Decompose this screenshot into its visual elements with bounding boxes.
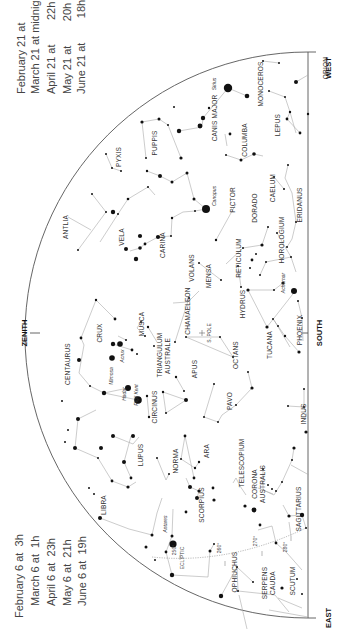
constellation-label: AUSTRALIS <box>259 465 266 503</box>
constellation-label: PICTOR <box>229 187 236 213</box>
constellation-label: PUPPIS <box>151 130 158 156</box>
ecliptic-mark-280: 280° <box>282 542 288 552</box>
constellation-label: DORADO <box>251 193 258 223</box>
star-label: Hadar <box>121 387 127 401</box>
constellation-label: MUSCA <box>138 311 145 336</box>
star-label: Canopus <box>211 185 217 206</box>
star-label: Sirius <box>211 77 217 90</box>
constellation-label: CRUX <box>96 323 103 343</box>
constellation-label: VELA <box>118 228 125 246</box>
constellation-label: PYXIS <box>115 146 122 167</box>
constellation-label: CAUDA <box>269 571 276 595</box>
constellation-label: COLUMBA <box>241 123 248 157</box>
south-pole-marker: S. POLE <box>199 323 212 343</box>
constellation-label: OPHIUCHUS <box>231 551 238 592</box>
constellation-label: SAGITTARIUS <box>295 486 302 532</box>
constellation-label: RETICULUM <box>235 238 242 278</box>
constellation-label: PHOENIX <box>296 314 303 345</box>
constellation-label: APUS <box>191 359 198 378</box>
constellation-label: HOROLOGIUM <box>278 216 285 263</box>
constellation-label: TELESCOPIUM <box>238 439 245 488</box>
constellation-label: CIRCINUS <box>151 390 158 423</box>
constellation-label: ARA <box>203 444 210 458</box>
constellation-label: INDUS <box>300 403 307 425</box>
constellation-label: CARINA <box>159 232 166 258</box>
star-label: Acrux <box>119 349 125 363</box>
constellation-label: NORMA <box>172 448 179 474</box>
south-pole-label: S. POLE <box>206 323 212 343</box>
ecliptic-mark-270: 270° <box>252 536 258 546</box>
south-label: SOUTH <box>315 320 324 346</box>
constellation-label: LEPUS <box>274 113 281 136</box>
constellation-label: SCUTUM <box>289 566 296 595</box>
constellation-label: VOLANS <box>188 254 195 282</box>
star-label: Rigil Kent <box>133 384 139 406</box>
star-chart: ORIONMONOCEROSLEPUSCANIS MAJORCOLUMBAPUP… <box>0 0 342 635</box>
star-label: Achernar <box>280 273 286 295</box>
constellation-label: TUCANA <box>266 331 273 359</box>
constellation-label: HYDRUS <box>239 289 246 318</box>
ecliptic-label: ECLIPTIC <box>179 546 185 569</box>
constellation-label: CORONA <box>251 469 258 499</box>
ecliptic-mark-260: 260° <box>216 543 222 553</box>
constellation-label: LUPUS <box>137 443 144 466</box>
constellation-label: PAVO <box>226 392 233 410</box>
zenith-label: ZENITH <box>20 319 29 346</box>
star-label: Antares <box>162 515 168 534</box>
constellation-label: LIBRA <box>100 495 107 515</box>
constellation-label: MONOCEROS <box>257 61 264 107</box>
east-label: EAST <box>324 608 333 628</box>
star-label: Mimosa <box>108 367 114 385</box>
ecliptic-mark-250: 250° <box>171 545 177 555</box>
constellation-labels: ORIONMONOCEROSLEPUSCANIS MAJORCOLUMBAPUP… <box>62 57 329 599</box>
constellation-label: CAELUM <box>269 174 276 202</box>
constellation-label: CANIS MAJOR <box>211 95 218 142</box>
west-label: WEST <box>324 57 333 79</box>
constellation-label: ERIDANUS <box>296 187 303 223</box>
constellation-label: AUSTRALE <box>164 338 171 374</box>
constellation-label: CENTAURUS <box>64 343 71 385</box>
constellation-label: SERPENS <box>261 566 268 599</box>
constellation-label: OCTANS <box>232 341 239 369</box>
constellation-label: TRIANGULUM <box>156 333 163 378</box>
constellation-label: MENSA <box>205 263 212 288</box>
constellation-label: CHAMAELEON <box>184 287 191 335</box>
constellation-label: ANTLIA <box>62 215 69 239</box>
constellation-label: SCORPIUS <box>198 487 205 523</box>
